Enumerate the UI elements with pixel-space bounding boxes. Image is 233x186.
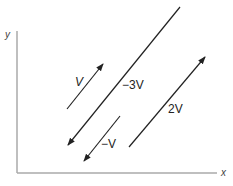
vector-v bbox=[67, 64, 103, 109]
diagram-canvas bbox=[0, 0, 233, 186]
label-v: V bbox=[75, 76, 83, 88]
label-minus-v: −V bbox=[101, 138, 116, 150]
x-axis-label: x bbox=[221, 168, 226, 178]
label-2v: 2V bbox=[168, 103, 183, 115]
vector-diagram: y x V −3V −V 2V bbox=[0, 0, 233, 186]
label-minus-3v: −3V bbox=[122, 79, 144, 91]
vector-2v bbox=[129, 57, 205, 147]
y-axis-label: y bbox=[5, 30, 10, 40]
vector-minus-3v bbox=[68, 7, 180, 145]
